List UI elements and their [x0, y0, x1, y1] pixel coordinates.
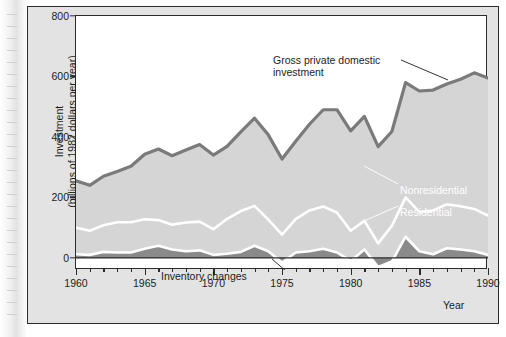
x-tick-mark-major: [419, 268, 420, 275]
x-tick-mark-minor: [117, 268, 118, 272]
figure-root: Investment (billions of 1982 dollars per…: [0, 0, 506, 337]
page-edge-tick: [7, 50, 17, 51]
x-tick-mark-minor: [90, 268, 91, 272]
x-tick-mark-minor: [392, 268, 393, 272]
y-tick-label: 800: [51, 10, 69, 22]
page-edge-tick: [7, 182, 17, 183]
y-tick-label: 600: [51, 70, 69, 82]
x-tick-label: 1960: [64, 277, 87, 289]
page-edge-tick: [7, 122, 17, 123]
x-tick-label: 1965: [133, 277, 156, 289]
page-edge-tick: [7, 230, 17, 231]
chart-card: Investment (billions of 1982 dollars per…: [27, 6, 499, 324]
x-tick-mark-major: [282, 268, 283, 275]
x-tick-mark-minor: [474, 268, 475, 272]
page-edge-tick: [7, 110, 17, 111]
page-edge-tick: [7, 302, 17, 303]
page-edge-tick: [7, 38, 17, 39]
annotation-inventory-changes: Inventory changes: [161, 270, 247, 282]
x-tick-label: 1990: [476, 277, 499, 289]
y-tick-label: 400: [51, 131, 69, 143]
x-tick-label: 1980: [339, 277, 362, 289]
page-edge-tick: [7, 98, 17, 99]
area-stack-fill: [76, 73, 488, 267]
page-edge-tick: [7, 170, 17, 171]
page-edge-tick: [7, 14, 17, 15]
x-tick-mark-minor: [378, 268, 379, 272]
x-tick-mark-minor: [296, 268, 297, 272]
page-scan-edge: [0, 0, 26, 337]
x-tick-mark-minor: [364, 268, 365, 272]
y-tick-mark: [70, 257, 76, 258]
page-edge-tick: [7, 146, 17, 147]
y-tick-label: 200: [51, 191, 69, 203]
x-tick-mark-minor: [337, 268, 338, 272]
page-edge-tick: [7, 290, 17, 291]
x-tick-mark-minor: [447, 268, 448, 272]
y-tick-label: 0: [63, 252, 69, 264]
x-tick-mark-minor: [406, 268, 407, 272]
page-edge-tick: [7, 206, 17, 207]
y-tick-mark: [70, 76, 76, 77]
y-tick-mark: [70, 15, 76, 16]
x-tick-mark-major: [76, 268, 77, 275]
x-tick-mark-minor: [158, 268, 159, 272]
x-tick-mark-minor: [268, 268, 269, 272]
page-edge-tick: [7, 278, 17, 279]
x-tick-mark-minor: [433, 268, 434, 272]
page-edge-tick: [7, 134, 17, 135]
x-tick-mark-minor: [131, 268, 132, 272]
page-edge-tick: [7, 74, 17, 75]
x-tick-mark-minor: [255, 268, 256, 272]
x-tick-mark-major: [145, 268, 146, 275]
series-label-residential: Residential: [400, 206, 452, 218]
x-tick-label: 1985: [408, 277, 431, 289]
x-tick-label: 1975: [270, 277, 293, 289]
y-tick-mark: [70, 136, 76, 137]
leader-line-gross-private: [401, 60, 448, 80]
y-tick-mark: [70, 197, 76, 198]
x-tick-mark-minor: [461, 268, 462, 272]
annotation-gross-private-domestic-investment: Gross private domestic investment: [273, 54, 380, 78]
x-axis-title: Year: [443, 299, 464, 311]
page-edge-tick: [7, 242, 17, 243]
page-edge-tick: [7, 314, 17, 315]
x-tick-mark-minor: [309, 268, 310, 272]
page-edge-tick: [7, 194, 17, 195]
x-tick-mark-major: [488, 268, 489, 275]
page-edge-tick: [7, 158, 17, 159]
page-edge-tick: [7, 62, 17, 63]
page-edge-tick: [7, 266, 17, 267]
series-label-nonresidential: Nonresidential: [400, 184, 467, 196]
page-edge-tick: [7, 254, 17, 255]
x-tick-mark-minor: [323, 268, 324, 272]
x-tick-mark-major: [351, 268, 352, 275]
page-edge-tick: [7, 218, 17, 219]
x-tick-mark-minor: [103, 268, 104, 272]
page-edge-tick: [7, 86, 17, 87]
page-edge-tick: [7, 26, 17, 27]
